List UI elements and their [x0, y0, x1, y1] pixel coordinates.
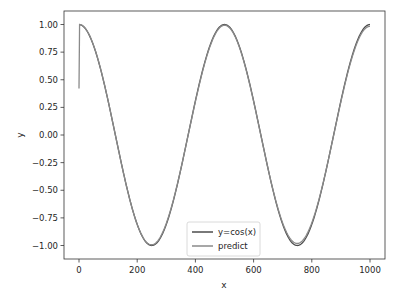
x-tick-label: 800	[304, 265, 320, 275]
y-tick-label: 1.00	[39, 20, 58, 30]
y-tick-label: 0.00	[39, 130, 58, 140]
y-tick-label: −0.50	[32, 185, 58, 195]
y-axis-label: y	[15, 132, 25, 138]
chart: 02004006008001000 1.000.750.500.250.00−0…	[0, 0, 403, 300]
y-tick-label: −1.00	[32, 241, 58, 251]
legend: y=cos(x) predict	[187, 222, 260, 256]
x-tick-label: 1000	[359, 265, 381, 275]
x-tick-label: 400	[187, 265, 203, 275]
y-tick-label: 0.75	[39, 47, 58, 57]
x-tick-label: 600	[245, 265, 261, 275]
x-tick-label: 0	[76, 265, 81, 275]
legend-label-cos: y=cos(x)	[218, 227, 256, 237]
y-tick-label: −0.75	[32, 213, 58, 223]
legend-label-predict: predict	[218, 241, 248, 251]
y-tick-label: 0.25	[39, 102, 58, 112]
x-axis-label: x	[221, 280, 227, 290]
x-tick-label: 200	[129, 265, 145, 275]
y-tick-label: −0.25	[32, 158, 58, 168]
y-tick-label: 0.50	[39, 75, 58, 85]
